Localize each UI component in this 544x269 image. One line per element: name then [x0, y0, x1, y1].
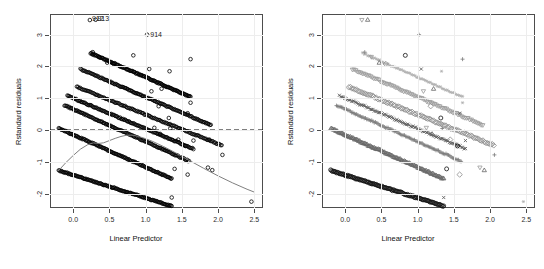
y-tick — [317, 66, 321, 67]
x-tick — [345, 209, 346, 213]
y-tick-label: 1 — [36, 93, 43, 103]
y-gridline — [322, 194, 535, 195]
y-tick — [317, 194, 321, 195]
left-panel: 0.00.51.01.52.02.53210-1-2 Linear Predic… — [0, 0, 272, 269]
y-gridline — [322, 35, 535, 36]
y-tick-label: -1 — [36, 157, 43, 167]
x-tick-label: 1.5 — [449, 216, 459, 223]
y-gridline — [50, 162, 263, 163]
x-tick-label: 1.0 — [413, 216, 423, 223]
x-tick — [381, 209, 382, 213]
x-tick — [218, 209, 219, 213]
x-tick-label: 0.0 — [340, 216, 350, 223]
y-tick — [317, 130, 321, 131]
left-x-axis-title: Linear Predictor — [110, 234, 163, 243]
y-gridline — [322, 162, 535, 163]
x-gridline — [182, 14, 183, 208]
x-tick — [182, 209, 183, 213]
y-tick-label: -2 — [308, 189, 315, 199]
outlier-label: 914 — [150, 31, 162, 38]
x-gridline — [454, 14, 455, 208]
x-tick-label: 1.0 — [141, 216, 151, 223]
right-y-axis-title: Rstandard residuals — [286, 78, 295, 145]
x-gridline — [526, 14, 527, 208]
y-tick — [317, 162, 321, 163]
x-tick — [73, 209, 74, 213]
y-tick — [45, 35, 49, 36]
x-gridline — [345, 14, 346, 208]
y-tick-label: 2 — [36, 61, 43, 71]
y-tick-label: 1 — [308, 93, 315, 103]
right-x-axis-title: Linear Predictor — [382, 234, 435, 243]
right-panel: 0.00.51.01.52.02.53210-1-2 Linear Predic… — [272, 0, 544, 269]
outlier-label: 913 — [97, 15, 109, 22]
x-tick — [146, 209, 147, 213]
x-tick-label: 2.5 — [521, 216, 531, 223]
x-tick-label: 2.0 — [485, 216, 495, 223]
x-gridline — [218, 14, 219, 208]
y-gridline — [50, 66, 263, 67]
x-gridline — [381, 14, 382, 208]
y-tick — [45, 130, 49, 131]
x-tick-label: 0.0 — [68, 216, 78, 223]
x-gridline — [418, 14, 419, 208]
y-tick-label: -2 — [36, 189, 43, 199]
x-tick — [526, 209, 527, 213]
y-tick — [45, 162, 49, 163]
x-tick-label: 0.5 — [377, 216, 387, 223]
x-gridline — [146, 14, 147, 208]
y-tick — [317, 35, 321, 36]
x-gridline — [73, 14, 74, 208]
y-tick — [317, 98, 321, 99]
x-tick — [490, 209, 491, 213]
y-tick-label: -1 — [308, 157, 315, 167]
y-tick-label: 0 — [36, 125, 43, 135]
y-tick-label: 2 — [308, 61, 315, 71]
x-gridline — [490, 14, 491, 208]
right-plot-frame — [322, 14, 535, 208]
x-tick — [109, 209, 110, 213]
x-tick-label: 2.5 — [249, 216, 259, 223]
x-gridline — [254, 14, 255, 208]
y-tick — [45, 66, 49, 67]
y-tick-label: 0 — [308, 125, 315, 135]
x-tick — [418, 209, 419, 213]
x-tick — [254, 209, 255, 213]
y-tick — [45, 194, 49, 195]
y-gridline — [50, 130, 263, 131]
left-y-axis-title: Rstandard residuals — [14, 78, 23, 145]
x-tick-label: 2.0 — [213, 216, 223, 223]
y-gridline — [322, 66, 535, 67]
y-tick — [45, 98, 49, 99]
y-tick-label: 3 — [36, 30, 43, 40]
x-gridline — [109, 14, 110, 208]
left-plot-frame — [50, 14, 263, 208]
y-gridline — [322, 98, 535, 99]
x-tick-label: 1.5 — [177, 216, 187, 223]
y-gridline — [50, 98, 263, 99]
y-gridline — [50, 194, 263, 195]
x-tick — [454, 209, 455, 213]
x-tick-label: 0.5 — [105, 216, 115, 223]
figure-canvas: 0.00.51.01.52.02.53210-1-2 Linear Predic… — [0, 0, 544, 269]
y-gridline — [322, 130, 535, 131]
y-tick-label: 3 — [308, 30, 315, 40]
